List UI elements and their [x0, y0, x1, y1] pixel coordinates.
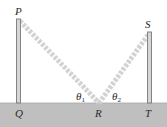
angle-theta1-label: θ1	[76, 90, 85, 104]
label-T: T	[145, 107, 152, 119]
pole-PQ	[17, 19, 21, 103]
beam-PR	[20, 21, 99, 103]
label-Q: Q	[15, 107, 23, 119]
beam-RS	[99, 35, 148, 103]
svg-text:θ1: θ1	[76, 90, 85, 104]
label-S: S	[145, 18, 151, 30]
svg-text:θ2: θ2	[112, 90, 121, 104]
angle-theta2-label: θ2	[112, 90, 121, 104]
ground	[0, 103, 167, 127]
reflection-diagram: P S Q R T θ1 θ2	[0, 0, 167, 127]
pole-ST	[148, 32, 152, 103]
label-P: P	[14, 5, 22, 17]
label-R: R	[94, 107, 102, 119]
